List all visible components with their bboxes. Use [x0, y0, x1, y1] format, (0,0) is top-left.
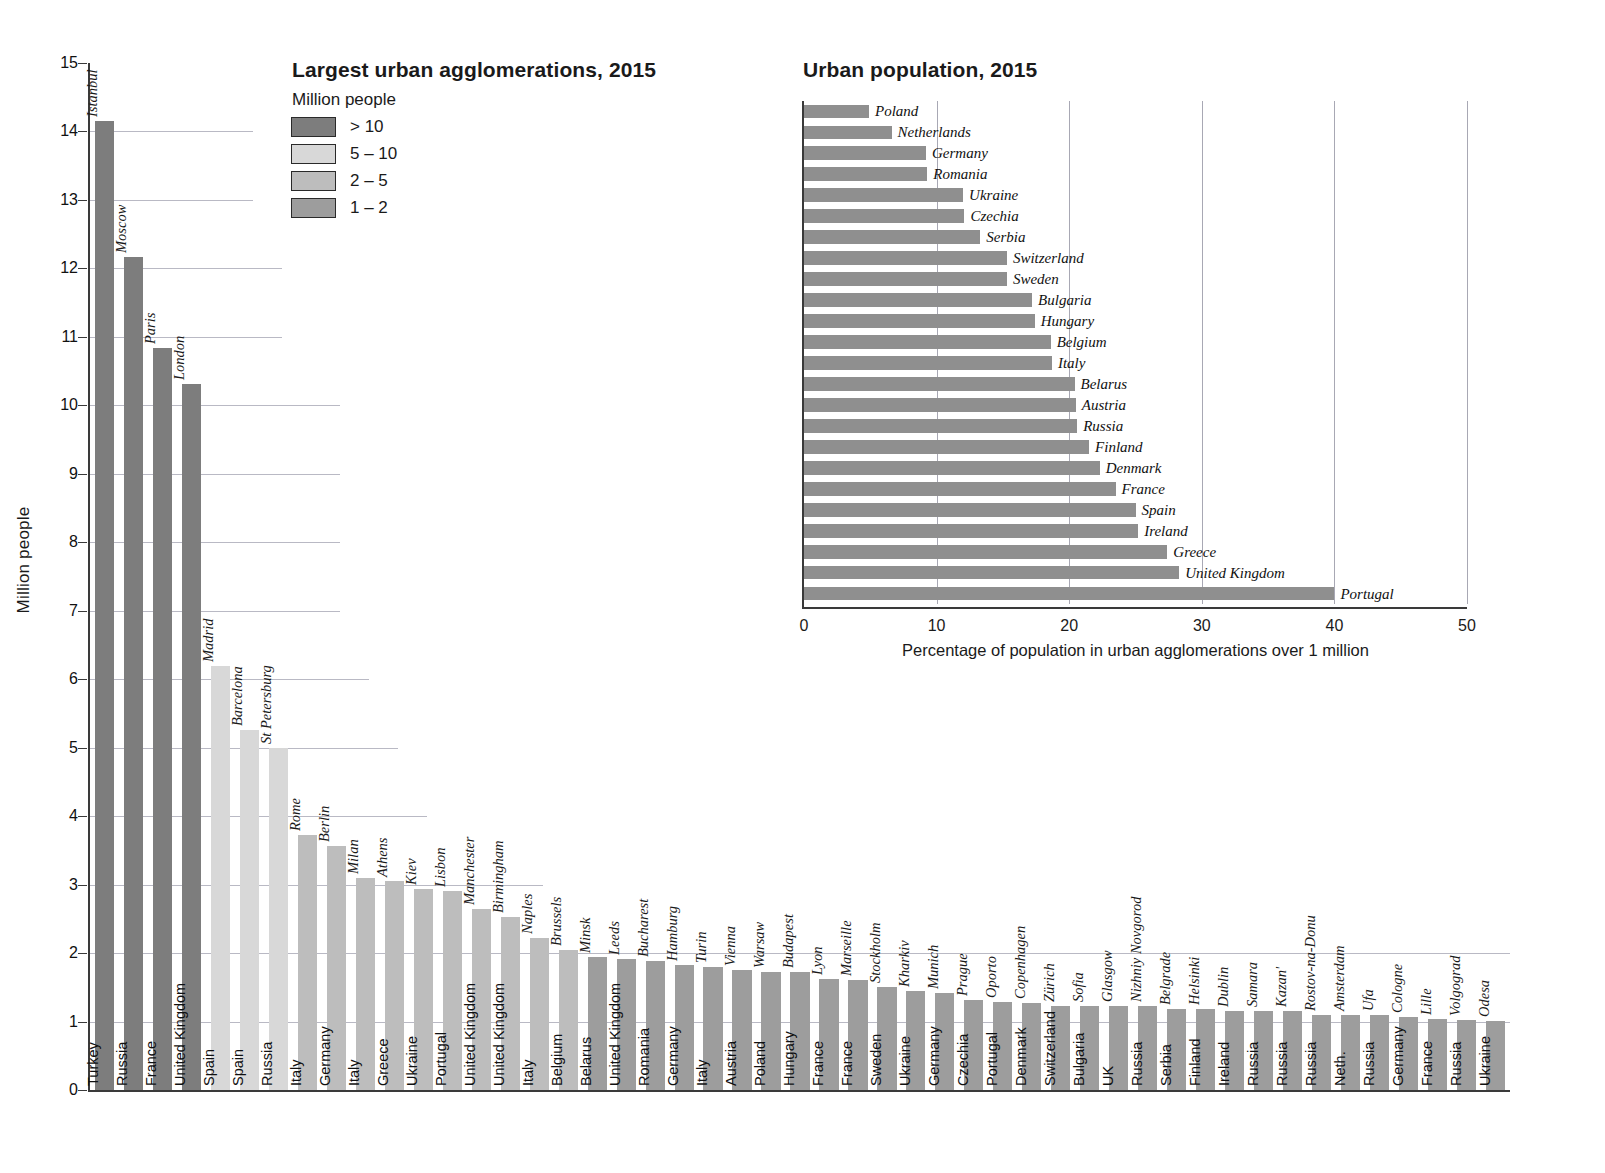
bar-country-label: Italy — [288, 1059, 304, 1086]
bar: BucharestRomania — [646, 961, 665, 1090]
bar-country-label: Ukraine — [897, 1036, 913, 1086]
bar-city-label: Leeds — [606, 921, 623, 955]
bar: WarsawPoland — [761, 972, 780, 1090]
y-axis-tick-mark — [78, 474, 87, 475]
hbar — [804, 314, 1035, 328]
bar-country-label: Germany — [926, 1026, 942, 1086]
y-axis-tick-labels: 0123456789101112131415 — [40, 0, 78, 1120]
bar-city-label: Madrid — [200, 618, 217, 662]
bar-country-label: France — [839, 1041, 855, 1086]
bar: AmsterdamNeth. — [1341, 1015, 1360, 1090]
bar-country-label: Romania — [636, 1028, 652, 1086]
hbar — [804, 272, 1007, 286]
bar-country-label: Greece — [375, 1038, 391, 1086]
hbar-label: France — [1122, 480, 1165, 497]
y-axis-tick-mark — [78, 1022, 87, 1023]
bar: Rostov-na-DonuRussia — [1312, 1015, 1331, 1090]
bar-country-label: Serbia — [1158, 1044, 1174, 1086]
bar-city-label: Marseille — [838, 921, 855, 977]
y-axis-tick-label: 10 — [42, 396, 78, 414]
bar: StockholmSweden — [877, 987, 896, 1090]
y-axis-tick-label: 3 — [42, 876, 78, 894]
legend-label: > 10 — [350, 117, 384, 137]
bar-country-label: Russia — [1303, 1042, 1319, 1086]
bar-city-label: Berlin — [316, 806, 333, 842]
bar: DublinIreland — [1225, 1011, 1244, 1090]
bar-city-label: Bucharest — [635, 899, 652, 957]
hbar-label: Denmark — [1106, 459, 1162, 476]
hbar-label: Germany — [932, 145, 988, 162]
y-axis-tick-mark — [78, 63, 87, 64]
bar-city-label: Amsterdam — [1331, 945, 1348, 1011]
bar-country-label: Portugal — [984, 1032, 1000, 1086]
bar-city-label: Belgrade — [1157, 952, 1174, 1005]
y-axis-tick-mark — [78, 337, 87, 338]
hbar — [804, 146, 926, 160]
bar-country-label: Switzerland — [1042, 1011, 1058, 1086]
bar-country-label: Portugal — [433, 1032, 449, 1086]
bar-country-label: Germany — [317, 1026, 333, 1086]
bar: Nizhniy NovgorodRussia — [1138, 1006, 1157, 1090]
hbar — [804, 398, 1076, 412]
bar-city-label: London — [171, 336, 188, 380]
left-chart-title: Largest urban agglomerations, 2015 — [292, 58, 656, 82]
bar: SofiaBulgaria — [1080, 1006, 1099, 1090]
bar: ManchesterUnited Kingdom — [472, 909, 491, 1090]
hbar-label: Austria — [1082, 396, 1126, 413]
hbar-label: Ukraine — [969, 187, 1018, 204]
bar: NaplesItaly — [530, 938, 549, 1090]
bar-city-label: Naples — [519, 894, 536, 934]
legend-label: 5 – 10 — [350, 144, 397, 164]
x-axis-tick-label: 0 — [800, 617, 809, 635]
gridline — [90, 131, 253, 132]
bar: KievUkraine — [414, 889, 433, 1090]
legend-swatch-icon — [291, 198, 336, 218]
y-axis-tick-mark — [78, 748, 87, 749]
bar-country-label: UK — [1100, 1066, 1116, 1086]
bar: CopenhagenDenmark — [1022, 1003, 1041, 1090]
bar: HelsinkiFinland — [1196, 1009, 1215, 1090]
hbar — [804, 461, 1100, 475]
hbar — [804, 335, 1051, 349]
bar-country-label: Hungary — [781, 1031, 797, 1086]
bar-country-label: Italy — [520, 1059, 536, 1086]
hbar-label: Switzerland — [1013, 250, 1084, 267]
bar-country-label: Russia — [114, 1042, 130, 1086]
bar-city-label: Lisbon — [432, 848, 449, 888]
y-axis-tick-mark — [78, 200, 87, 201]
hbar-label: Sweden — [1013, 271, 1059, 288]
bar: MarseilleFrance — [848, 980, 867, 1090]
y-axis-tick-label: 0 — [42, 1081, 78, 1099]
bar: LisbonPortugal — [443, 891, 462, 1090]
bar-city-label: Glasgow — [1099, 950, 1116, 1002]
legend-row: > 10 — [291, 113, 397, 140]
y-axis-tick-mark — [78, 885, 87, 886]
legend-label: 1 – 2 — [350, 198, 388, 218]
bar-city-label: Milan — [345, 839, 362, 874]
hbar-label: Czechia — [970, 208, 1018, 225]
x-axis-tick-label: 30 — [1193, 617, 1211, 635]
bar-city-label: Stockholm — [867, 923, 884, 983]
bar-city-label: St Petersburg — [258, 666, 275, 745]
bar-city-label: Moscow — [113, 205, 130, 253]
bar-city-label: Kharkiv — [896, 941, 913, 988]
bar-city-label: Vienna — [722, 926, 739, 966]
y-axis-tick-label: 8 — [42, 533, 78, 551]
legend-swatch-icon — [291, 144, 336, 164]
bar-country-label: Germany — [665, 1026, 681, 1086]
bar-city-label: Paris — [142, 312, 159, 343]
bar-country-label: United Kingdom — [462, 983, 478, 1086]
bar: BirminghamUnited Kingdom — [501, 917, 520, 1090]
bar: TurinItaly — [703, 967, 722, 1090]
legend: > 105 – 102 – 51 – 2 — [291, 113, 397, 221]
bar-country-label: Spain — [230, 1049, 246, 1086]
hbar-label: Poland — [875, 103, 918, 120]
bar: GlasgowUK — [1109, 1006, 1128, 1090]
bar-country-label: France — [1419, 1041, 1435, 1086]
bar-country-label: Russia — [1448, 1042, 1464, 1086]
legend-swatch-icon — [291, 171, 336, 191]
vertical-gridline — [1334, 101, 1335, 604]
bar: BerlinGermany — [327, 846, 346, 1090]
bar-country-label: United Kingdom — [491, 983, 507, 1086]
y-axis-tick-label: 14 — [42, 122, 78, 140]
